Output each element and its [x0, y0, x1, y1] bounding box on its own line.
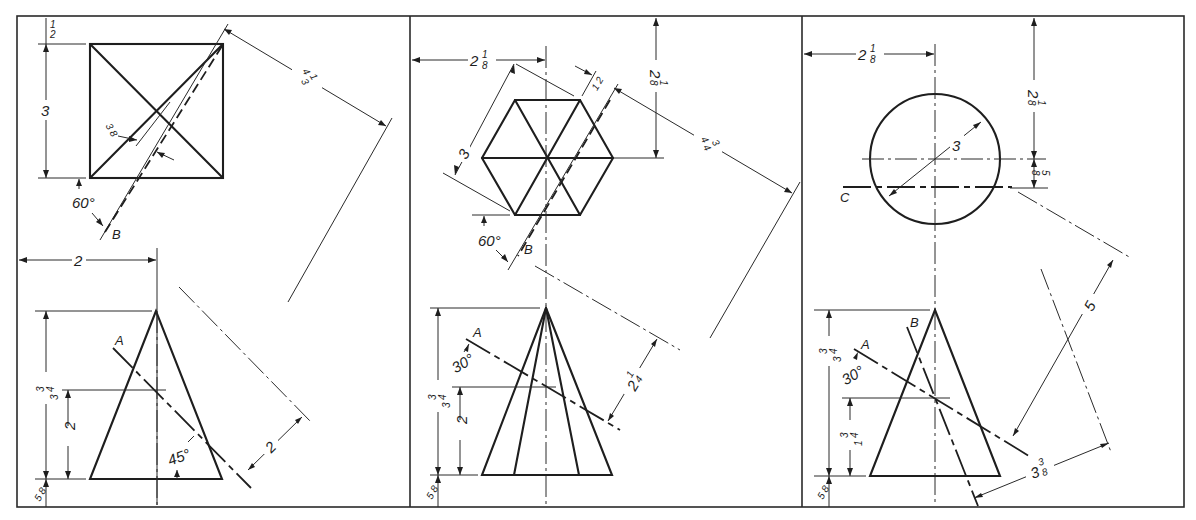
dim-vertical-2-1-8: 2 1 8 — [1024, 18, 1047, 159]
svg-text:2: 2 — [61, 421, 78, 431]
svg-text:3: 3 — [952, 137, 961, 154]
svg-text:8: 8 — [870, 54, 876, 65]
svg-text:8: 8 — [648, 80, 659, 86]
panel-right: 2 1 8 2 1 8 5 8 3 C — [804, 18, 1131, 507]
svg-text:1: 1 — [870, 43, 876, 54]
svg-text:2: 2 — [469, 52, 479, 69]
svg-text:30°: 30° — [839, 362, 867, 388]
dim-cut-height-2: 2 — [61, 390, 166, 479]
svg-text:8: 8 — [819, 483, 832, 494]
svg-text:3: 3 — [49, 394, 60, 400]
cutting-plane-b-hidden — [518, 100, 610, 256]
dim-aux-2: 2 — [179, 287, 312, 470]
drawing-sheet: B 1 2 3 3 8 6 — [0, 0, 1196, 520]
svg-text:2: 2 — [1025, 89, 1042, 99]
dim-offset-1-2: 1 2 — [575, 66, 606, 96]
aux-reference-line-2 — [1041, 269, 1111, 452]
svg-text:2: 2 — [453, 415, 470, 425]
svg-text:60°: 60° — [478, 232, 501, 249]
svg-text:2: 2 — [49, 29, 56, 40]
dim-horizontal-2-1-8: 2 1 8 — [804, 43, 934, 66]
svg-text:2: 2 — [857, 46, 867, 63]
svg-text:4: 4 — [437, 394, 448, 400]
plane-label-c: C — [840, 190, 850, 205]
svg-text:4: 4 — [828, 348, 839, 354]
svg-text:8: 8 — [1030, 170, 1041, 176]
dim-bottom-5-8: 5 8 — [815, 476, 832, 507]
dim-aux-4-1-3: 4 1 3 — [224, 29, 392, 302]
dim-height-3-3-4: 3 3 4 — [427, 308, 540, 475]
dim-aux-5: 5 — [1013, 260, 1113, 436]
plane-label-a: A — [860, 337, 870, 352]
dim-height-3-3-4: 3 3 4 — [35, 311, 152, 479]
angle-45: 45° — [165, 436, 194, 479]
plane-label-a: A — [472, 325, 482, 340]
plane-label-b: B — [910, 315, 919, 330]
dim-aux-4-3-4: 4 3 4 — [614, 88, 800, 338]
dim-height-3-3-4: 3 3 4 — [814, 310, 930, 476]
dim-horizontal-2-1-8: 2 1 8 — [412, 49, 545, 71]
dim-bottom-5-8: 5 8 — [424, 475, 441, 507]
dim-half: 1 2 — [38, 18, 86, 44]
svg-text:8: 8 — [1026, 100, 1037, 106]
svg-text:3: 3 — [441, 402, 452, 408]
plane-label-a: A — [114, 333, 124, 348]
sheet-frame — [17, 16, 1184, 507]
svg-text:2: 2 — [647, 69, 664, 79]
dim-vertical-2-1-8: 2 1 8 — [614, 18, 669, 158]
svg-text:30°: 30° — [449, 350, 477, 376]
angle-30: 30° — [449, 344, 477, 376]
svg-text:8: 8 — [482, 60, 488, 71]
svg-text:3: 3 — [832, 356, 843, 362]
svg-text:8: 8 — [108, 128, 121, 139]
dim-cut-height-2: 2 — [452, 387, 556, 475]
cutting-plane-a — [854, 349, 1029, 456]
svg-text:4: 4 — [45, 386, 56, 392]
panel-left: B 1 2 3 3 8 6 — [19, 18, 392, 507]
hexagon-top-view — [482, 100, 613, 215]
dim-three-vertical: 3 — [38, 44, 86, 178]
svg-text:1: 1 — [482, 49, 488, 60]
aux-reference-line — [1018, 192, 1131, 258]
cutting-plane-a — [466, 339, 620, 430]
svg-text:2: 2 — [73, 252, 83, 269]
angle-60: 60° — [72, 179, 103, 226]
svg-text:3: 3 — [41, 102, 50, 119]
aux-reference-line — [179, 287, 312, 423]
hex-pyramid-front-view — [482, 308, 612, 475]
cutting-plane-b-hidden — [105, 46, 222, 232]
svg-text:8: 8 — [428, 483, 441, 494]
panel-middle: 2 1 8 2 1 8 3 1 — [412, 18, 800, 507]
dim-plane-offset-5-8: 5 8 — [1010, 159, 1051, 188]
dim-bottom-5-8: 5 8 — [32, 479, 49, 507]
angle-60: 60° — [472, 215, 510, 262]
plane-label-b: B — [524, 242, 533, 257]
svg-text:60°: 60° — [72, 194, 95, 211]
square-top-view — [90, 44, 223, 178]
plane-label-b: B — [112, 227, 121, 242]
dim-aux-2-1-4: 2 1 4 — [608, 339, 657, 421]
dim-across-flats-3: 3 — [443, 64, 574, 211]
svg-text:45°: 45° — [165, 445, 192, 469]
dim-aux-3-3-8: 3 3 8 — [974, 443, 1109, 498]
pyramid-front-view — [90, 311, 222, 479]
svg-text:1: 1 — [853, 440, 864, 446]
svg-text:4: 4 — [849, 432, 860, 438]
dim-cut-height-1-3-4: 1 3 4 — [839, 398, 950, 476]
